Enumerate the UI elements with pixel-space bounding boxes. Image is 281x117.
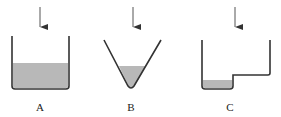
container-a: A — [12, 7, 69, 113]
container-c: C — [202, 7, 270, 113]
label-a: A — [36, 101, 44, 113]
liquid-c — [203, 80, 232, 88]
diagram-canvas: A B C — [0, 0, 281, 117]
label-c: C — [226, 101, 233, 113]
liquid-a — [13, 63, 68, 88]
label-b: B — [127, 101, 134, 113]
container-b: B — [104, 7, 161, 113]
